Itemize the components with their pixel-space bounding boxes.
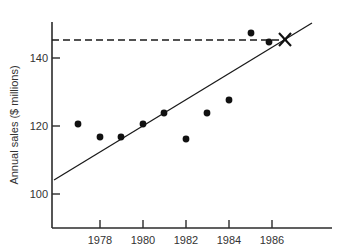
- data-point: [75, 121, 82, 128]
- forecast-x-marker: [279, 33, 291, 46]
- data-point: [266, 39, 273, 46]
- data-points-group: [75, 30, 273, 143]
- x-tick-label-1986: 1986: [260, 234, 284, 246]
- data-point: [161, 110, 168, 117]
- y-tick-label-120: 120: [30, 120, 48, 132]
- data-point: [183, 136, 190, 143]
- x-tick-label-1978: 1978: [88, 234, 112, 246]
- data-point: [118, 134, 125, 141]
- data-point: [97, 134, 104, 141]
- y-tick-label-140: 140: [30, 52, 48, 64]
- scatter-plot: 140 120 100 1978 1980 1982 1984 1986 Ann…: [0, 0, 340, 252]
- x-tick-label-1984: 1984: [217, 234, 241, 246]
- regression-trend-line: [54, 23, 312, 180]
- x-tick-label-1980: 1980: [131, 234, 155, 246]
- chart-figure: 140 120 100 1978 1980 1982 1984 1986 Ann…: [0, 0, 340, 252]
- x-tick-label-1982: 1982: [174, 234, 198, 246]
- x-axis-tick-labels: 1978 1980 1982 1984 1986: [88, 234, 284, 246]
- data-point: [226, 97, 233, 104]
- y-axis-ticks: [52, 58, 60, 194]
- data-point: [204, 110, 211, 117]
- y-axis-title: Annual sales ($ millions): [8, 65, 20, 184]
- data-point: [248, 30, 255, 37]
- y-tick-label-100: 100: [30, 188, 48, 200]
- x-axis-ticks: [100, 220, 272, 228]
- y-axis-tick-labels: 140 120 100: [30, 52, 48, 200]
- data-point: [140, 121, 147, 128]
